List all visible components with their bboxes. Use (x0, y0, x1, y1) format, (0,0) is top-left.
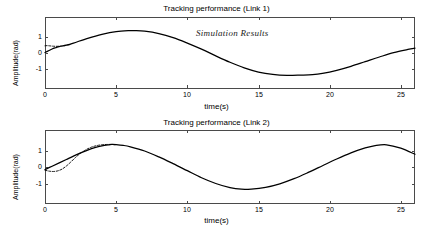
figure-canvas: Tracking performance (Link 1) Amplitude(… (0, 0, 433, 235)
plot-panel-link-2: Tracking performance (Link 2) Amplitude(… (0, 118, 433, 235)
curve-layer-link-1 (0, 0, 433, 118)
curve-layer-link-2 (0, 118, 433, 235)
curve-solid-panel-2 (45, 144, 415, 189)
plot-panel-link-1: Tracking performance (Link 1) Amplitude(… (0, 0, 433, 118)
curve-dashed-panel-2 (45, 144, 116, 171)
curve-solid-panel-1 (45, 30, 415, 75)
